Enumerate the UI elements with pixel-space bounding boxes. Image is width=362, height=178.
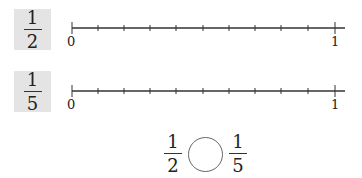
denominator: 5 bbox=[229, 154, 246, 175]
number-line-axis bbox=[0, 81, 362, 101]
fraction-right: 1 5 bbox=[229, 133, 247, 175]
numerator: 1 bbox=[164, 133, 181, 153]
comparison: 1 2 1 5 bbox=[164, 133, 247, 175]
tick-label-1: 1 bbox=[331, 34, 339, 49]
answer-circle[interactable] bbox=[188, 137, 223, 172]
tick-label-1: 1 bbox=[331, 97, 339, 112]
number-line-2: 0 1 bbox=[0, 81, 362, 131]
fraction-left: 1 2 bbox=[164, 133, 182, 175]
numerator: 1 bbox=[229, 133, 246, 153]
tick-label-0: 0 bbox=[67, 34, 75, 49]
number-line-axis bbox=[0, 18, 362, 38]
tick-label-0: 0 bbox=[67, 97, 75, 112]
denominator: 2 bbox=[164, 154, 181, 175]
number-line-1: 0 1 bbox=[0, 18, 362, 68]
